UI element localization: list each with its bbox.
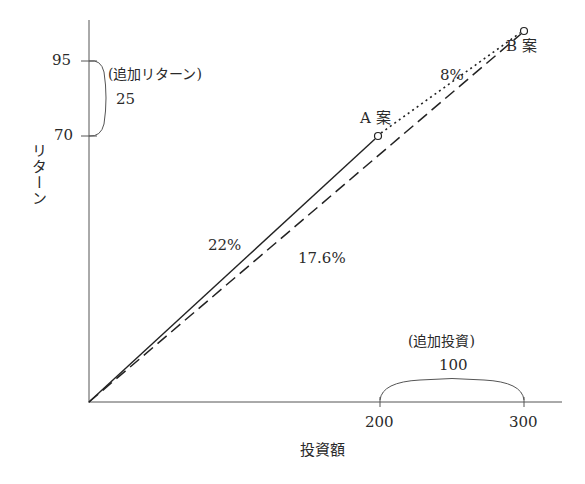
add-invest-value: 100 <box>439 356 468 374</box>
line-a-solid <box>89 139 375 402</box>
add-invest-brace <box>380 379 524 401</box>
rate-diff-label: 8% <box>440 66 464 84</box>
point-a-label: A 案 <box>360 106 391 127</box>
x-tick-label-300: 300 <box>509 413 538 431</box>
point-b-label: B 案 <box>506 34 537 55</box>
rate-b-label: 17.6% <box>298 249 346 267</box>
y-tick-label-70: 70 <box>54 126 73 144</box>
x-tick-label-200: 200 <box>365 413 394 431</box>
add-return-value: 25 <box>116 90 135 108</box>
rate-a-label: 22% <box>208 236 241 254</box>
add-invest-title: (追加投資) <box>408 330 475 350</box>
y-tick-label-95: 95 <box>52 51 71 69</box>
x-axis-label: 投資額 <box>300 438 345 459</box>
add-return-brace <box>89 61 106 136</box>
chart-canvas <box>0 0 585 484</box>
y-axis-label: リターン <box>28 143 49 207</box>
point-a-marker <box>375 133 382 140</box>
add-return-title: (追加リターン) <box>108 63 202 83</box>
